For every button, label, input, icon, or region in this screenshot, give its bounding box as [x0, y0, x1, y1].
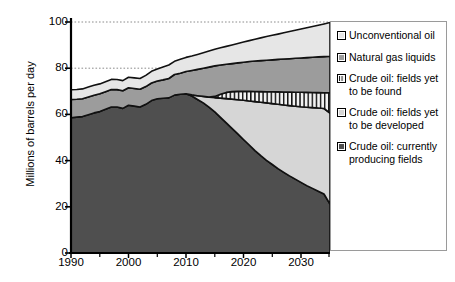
x-tick-label: 1990: [58, 256, 84, 268]
legend-label: Crude oil: fields yet to be developed: [349, 106, 441, 131]
legend-label: Crude oil: fields yet to be found: [349, 72, 441, 97]
legend-label: Unconventional oil: [349, 29, 435, 42]
legend-item-natural-gas-liquids[interactable]: Natural gas liquids: [337, 51, 441, 64]
x-tick-label: 2010: [173, 256, 199, 268]
medium-gray-swatch-icon: [337, 53, 346, 62]
legend-label: Crude oil: currently producing fields: [349, 140, 441, 165]
x-tick-label: 2000: [116, 256, 142, 268]
legend-item-fields-yet-to-be-found[interactable]: Crude oil: fields yet to be found: [337, 72, 441, 97]
x-tick-label: 2030: [288, 256, 314, 268]
x-tick-label: 2020: [231, 256, 257, 268]
chart-legend: Unconventional oil Natural gas liquids C…: [330, 21, 447, 251]
hatched-swatch-icon: [337, 74, 346, 83]
dark-gray-swatch-icon: [337, 142, 346, 151]
chart-figure: Millions of barrels per day 100 80 60 40…: [0, 0, 455, 282]
legend-label: Natural gas liquids: [349, 51, 435, 64]
legend-item-currently-producing-fields[interactable]: Crude oil: currently producing fields: [337, 140, 441, 165]
x-axis-tick-labels: 1990 2000 2010 2020 2030: [0, 256, 330, 276]
legend-item-fields-yet-to-be-developed[interactable]: Crude oil: fields yet to be developed: [337, 106, 441, 131]
area-chart-canvas: [0, 0, 330, 282]
legend-item-unconventional-oil[interactable]: Unconventional oil: [337, 29, 441, 42]
plot-area: Millions of barrels per day 100 80 60 40…: [0, 0, 330, 282]
light-gray-swatch-icon: [337, 31, 346, 40]
pale-gray-swatch-icon: [337, 108, 346, 117]
